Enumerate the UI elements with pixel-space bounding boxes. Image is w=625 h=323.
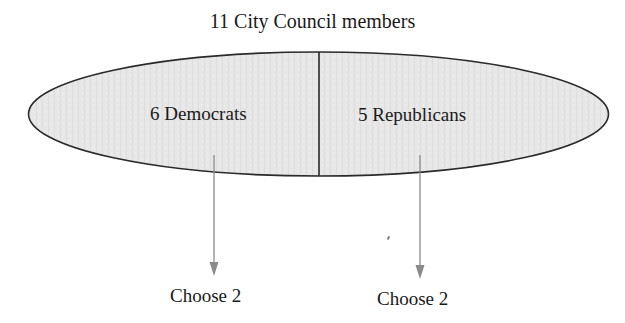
democrats-arrow: [210, 155, 219, 276]
democrats-choose-label: Choose 2: [170, 286, 241, 305]
republicans-choose-label: Choose 2: [377, 289, 448, 308]
ink-speck: [387, 236, 391, 240]
democrats-label: 6 Democrats: [150, 104, 247, 123]
republicans-label: 5 Republicans: [358, 105, 466, 124]
diagram-title: 11 City Council members: [0, 11, 625, 31]
republicans-arrow: [416, 155, 425, 279]
council-diagram: [0, 0, 625, 323]
